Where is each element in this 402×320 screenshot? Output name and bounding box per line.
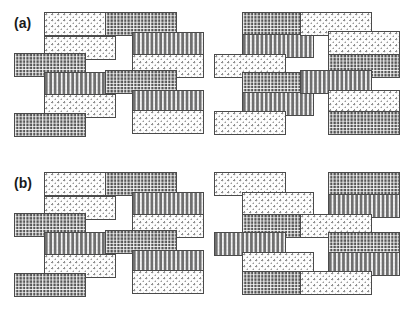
block-light [328,31,400,55]
block-medium [132,192,204,216]
block-light [132,110,204,134]
panel-a: (a) [0,0,398,160]
panel-b: (b) [0,160,398,320]
block-light [300,271,372,295]
stack-b2 [105,160,215,320]
stack-a2 [105,0,215,160]
block-dark [14,273,86,297]
stack-a4 [292,0,402,160]
block-dark [14,113,86,137]
stack-b4 [292,160,402,320]
block-light [214,111,286,135]
block-medium [132,32,204,56]
block-dark [328,172,400,196]
block-dark [328,111,400,135]
block-light [132,270,204,294]
